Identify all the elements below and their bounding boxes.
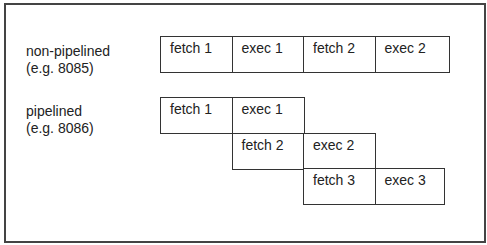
row-sublabel: (e.g. 8086) [26,120,94,137]
np-cell-fetch-1: fetch 1 [160,36,233,73]
p-cell-fetch-2: fetch 2 [232,133,305,170]
p-cell-fetch-1: fetch 1 [160,97,233,134]
p-cell-exec-1: exec 1 [232,97,305,134]
pipelined-label: pipelined (e.g. 8086) [26,103,94,137]
np-cell-exec-2: exec 2 [375,36,450,73]
row-label: non-pipelined [26,43,110,60]
np-cell-exec-1: exec 1 [232,36,305,73]
p-cell-exec-2: exec 2 [303,133,376,170]
row-sublabel: (e.g. 8085) [26,60,110,77]
p-cell-fetch-3: fetch 3 [303,168,376,205]
non-pipelined-label: non-pipelined (e.g. 8085) [26,43,110,77]
row-label: pipelined [26,103,94,120]
np-cell-fetch-2: fetch 2 [303,36,376,73]
p-cell-exec-3: exec 3 [375,168,445,205]
